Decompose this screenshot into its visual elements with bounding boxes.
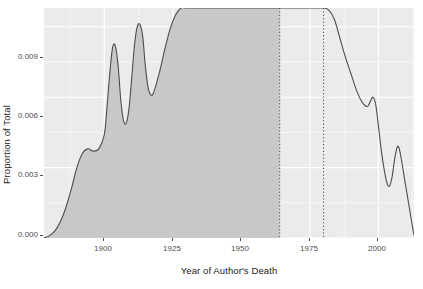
- y-tick-label-0009: 0.009: [4, 52, 38, 62]
- x-tick-label-1925: 1925: [152, 244, 192, 254]
- y-axis-title: Proportion of Total: [0, 0, 14, 289]
- annotation-vlines: [280, 8, 324, 238]
- plot-panel: [44, 8, 414, 238]
- plot-area: [44, 8, 414, 238]
- y-tick-mark-0009: [40, 57, 43, 58]
- x-tick-label-2000: 2000: [357, 244, 397, 254]
- y-tick-mark-0006: [40, 116, 43, 117]
- y-tick-label-0003: 0.003: [4, 170, 38, 180]
- x-tick-mark-2000: [377, 238, 378, 241]
- y-tick-mark-0003: [40, 175, 43, 176]
- y-tick-mark-0000: [40, 235, 43, 236]
- y-tick-label-0006: 0.006: [4, 111, 38, 121]
- x-tick-mark-1900: [103, 238, 104, 241]
- density-area-fill: [44, 8, 281, 238]
- x-tick-label-1900: 1900: [83, 244, 123, 254]
- x-tick-label-1975: 1975: [289, 244, 329, 254]
- x-tick-mark-1975: [309, 238, 310, 241]
- x-axis-title: Year of Author's Death: [44, 265, 414, 276]
- x-tick-mark-1950: [240, 238, 241, 241]
- y-tick-label-0000: 0.000: [4, 230, 38, 240]
- x-tick-label-1950: 1950: [220, 244, 260, 254]
- x-tick-mark-1925: [172, 238, 173, 241]
- density-chart: Proportion of Total 0.009 0.006 0.003 0.…: [0, 0, 423, 289]
